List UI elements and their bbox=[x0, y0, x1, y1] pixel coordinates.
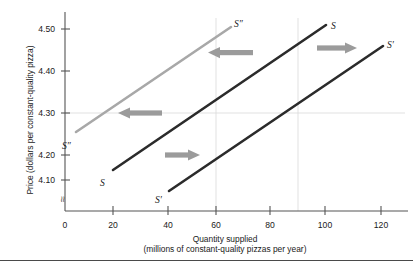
x-tick-labels: 0 20 40 60 80 100 120 bbox=[63, 220, 389, 230]
x-tick-label-100: 100 bbox=[318, 220, 333, 230]
axes bbox=[65, 12, 408, 211]
curve-label-s-prime-bottom: S′ bbox=[155, 194, 163, 205]
y-tick-label-430: 4.30 bbox=[38, 108, 55, 118]
arrow-right-upper-icon bbox=[317, 42, 357, 53]
y-tick-label-420: 4.20 bbox=[38, 150, 55, 160]
curve-label-s-top: S bbox=[331, 20, 336, 31]
y-axis-title: Price (dollars per constant-quality pizz… bbox=[25, 45, 35, 194]
y-tick-label-450: 4.50 bbox=[38, 24, 55, 34]
supply-curve-s-prime bbox=[169, 46, 383, 191]
curve-label-s-bottom: S bbox=[100, 177, 105, 188]
x-tick-label-20: 20 bbox=[108, 220, 118, 230]
x-axis-title-line1: Quantity supplied bbox=[193, 234, 258, 244]
x-tick-label-80: 80 bbox=[265, 220, 275, 230]
supply-curve-s bbox=[113, 25, 326, 170]
y-tick-labels: 4.50 4.40 4.30 4.20 4.10 bbox=[38, 24, 55, 185]
y-tick-label-410: 4.10 bbox=[38, 175, 55, 185]
axis-break-symbol: ≈ bbox=[57, 196, 69, 202]
arrow-right-lower-icon bbox=[165, 149, 200, 160]
arrow-left-lower-icon bbox=[118, 107, 162, 118]
curve-label-s-double-prime-top: S″ bbox=[234, 18, 244, 29]
x-tick-label-40: 40 bbox=[163, 220, 173, 230]
chart-canvas: ≈ 4.50 4.40 4.30 4.20 4.10 0 20 40 60 80… bbox=[0, 0, 413, 268]
figure-bottom-rule bbox=[0, 260, 413, 261]
x-tick-label-0: 0 bbox=[63, 220, 68, 230]
curve-label-s-double-prime-bottom: S″ bbox=[62, 140, 72, 151]
supply-curve-s-double-prime bbox=[76, 27, 231, 132]
curve-label-s-prime-top: S′ bbox=[387, 39, 395, 50]
arrow-left-upper-icon bbox=[208, 47, 253, 58]
x-tick-label-60: 60 bbox=[211, 220, 221, 230]
x-tick-label-120: 120 bbox=[374, 220, 389, 230]
x-axis-title-line2: (millions of constant-quality pizzas per… bbox=[144, 244, 307, 254]
supply-curve-figure: ≈ 4.50 4.40 4.30 4.20 4.10 0 20 40 60 80… bbox=[0, 0, 413, 268]
y-tick-label-440: 4.40 bbox=[38, 66, 55, 76]
